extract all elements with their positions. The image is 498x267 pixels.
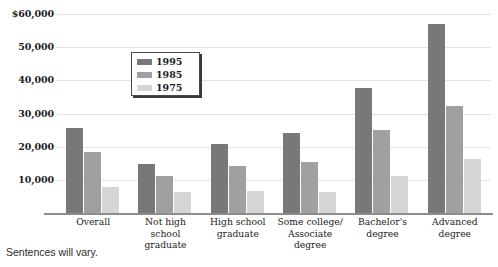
bar (428, 24, 445, 213)
bar (391, 176, 408, 213)
bar-group (283, 14, 336, 213)
gridline (57, 114, 491, 115)
bar (355, 88, 372, 213)
bar (301, 162, 318, 213)
bar-chart-figure: $60,00050,00040,00030,00020,00010,000 Ov… (0, 0, 498, 267)
legend-swatch-icon (137, 72, 152, 78)
legend-label: 1975 (156, 83, 182, 93)
caption-text: Sentences will vary. (6, 246, 98, 258)
bar-group (138, 14, 191, 213)
bar (156, 176, 173, 213)
bar (319, 192, 336, 213)
bar (229, 166, 246, 213)
gridline (57, 14, 491, 15)
legend-item: 1995 (137, 56, 199, 68)
plot-area (57, 14, 491, 213)
bar (247, 191, 264, 213)
y-axis: $60,00050,00040,00030,00020,00010,000 (0, 0, 54, 220)
x-axis-tick-label: Advanceddegree (411, 216, 498, 239)
bar (84, 152, 101, 213)
y-axis-tick-label: 10,000 (0, 175, 54, 185)
bar (211, 144, 228, 213)
y-axis-tick-label: 20,000 (0, 142, 54, 152)
legend-swatch-icon (137, 59, 152, 65)
bar (446, 106, 463, 213)
bar-group (66, 14, 119, 213)
bar (138, 164, 155, 213)
y-axis-tick-label: 30,000 (0, 109, 54, 119)
bar (66, 128, 83, 213)
bar (102, 187, 119, 213)
y-axis-tick-label: 50,000 (0, 42, 54, 52)
chart-legend: 199519851975 (131, 52, 200, 96)
y-axis-tick-label: 40,000 (0, 75, 54, 85)
legend-item: 1975 (137, 82, 199, 94)
bar-group (428, 14, 481, 213)
y-axis-tick-label: $60,000 (0, 9, 54, 19)
gridline (57, 80, 491, 81)
bar (373, 130, 390, 213)
bar-group (211, 14, 264, 213)
legend-item: 1985 (137, 69, 199, 81)
bar (283, 133, 300, 213)
x-axis: OverallNot highschoolgraduateHigh school… (57, 216, 491, 266)
legend-swatch-icon (137, 85, 152, 91)
bar-group (355, 14, 408, 213)
bar (174, 192, 191, 213)
bar (464, 159, 481, 213)
gridline (57, 47, 491, 48)
legend-label: 1995 (156, 57, 182, 67)
x-axis-baseline (44, 213, 493, 215)
gridline (57, 147, 491, 148)
legend-label: 1985 (156, 70, 182, 80)
gridline (57, 180, 491, 181)
